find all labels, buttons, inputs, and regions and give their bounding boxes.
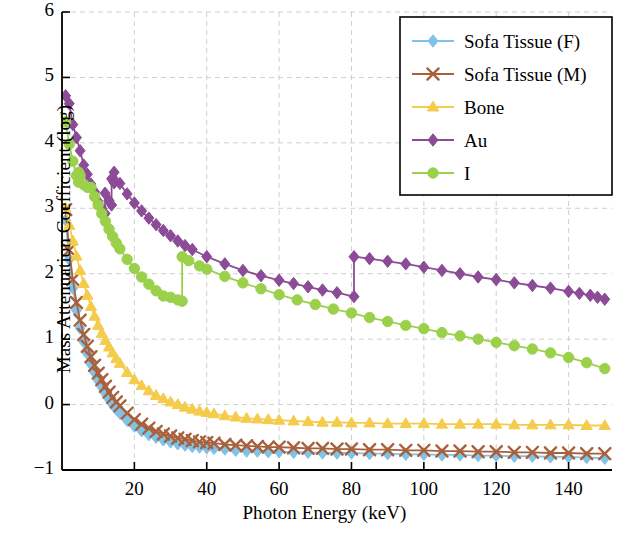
x-tick-label: 40 [182,478,232,500]
y-tick-label: 4 [14,130,54,152]
legend-label: Sofa Tissue (F) [464,31,580,53]
y-tick-label: 5 [14,64,54,86]
x-tick-label: 20 [109,478,159,500]
legend-label: Sofa Tissue (M) [464,64,586,86]
legend-label: I [464,163,470,184]
y-tick-label: −1 [14,457,54,479]
y-axis-title: Mass Attenuation Coefficient (log) [53,49,75,429]
x-tick-label: 80 [326,478,376,500]
legend-label: Bone [464,97,504,118]
y-tick-label: 0 [14,392,54,414]
plot-canvas: Sofa Tissue (F)Sofa Tissue (M)BoneAuI [0,0,630,534]
chart-figure: Sofa Tissue (F)Sofa Tissue (M)BoneAuI Ma… [0,0,630,534]
x-tick-label: 140 [544,478,594,500]
chart-legend: Sofa Tissue (F)Sofa Tissue (M)BoneAuI [400,17,612,195]
y-tick-label: 3 [14,195,54,217]
y-tick-label: 2 [14,261,54,283]
x-tick-label: 100 [399,478,449,500]
y-tick-label: 6 [14,0,54,21]
legend-label: Au [464,130,488,151]
x-axis-title: Photon Energy (keV) [62,502,587,524]
x-tick-label: 120 [471,478,521,500]
x-tick-label: 60 [254,478,304,500]
series-bone [60,202,610,429]
y-tick-label: 1 [14,326,54,348]
